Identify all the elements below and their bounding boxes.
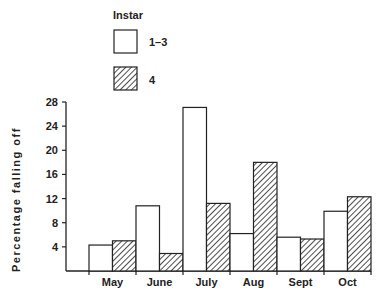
y-axis: 481216202428 (46, 96, 66, 271)
bar-july-instar-4 (207, 203, 231, 271)
y-tick-label: 20 (46, 144, 58, 156)
bar-june-instar-1-3 (136, 206, 160, 271)
x-tick-label: Oct (338, 276, 357, 288)
legend-swatch-open (114, 30, 137, 53)
legend-label-1: 1–3 (149, 36, 167, 48)
x-tick-label: Aug (243, 276, 264, 288)
x-tick-label: Sept (289, 276, 313, 288)
bar-aug-instar-1-3 (230, 234, 254, 271)
bar-oct-instar-1-3 (324, 211, 348, 271)
y-axis-label: Percentage falling off (10, 127, 22, 272)
y-tick-label: 4 (52, 241, 59, 253)
x-tick-label: June (147, 276, 173, 288)
x-axis-labels: MayJuneJulyAugSeptOct (102, 276, 357, 288)
bar-sept-instar-4 (301, 239, 325, 271)
legend-swatch-hatched (114, 67, 137, 90)
bar-aug-instar-4 (254, 162, 278, 271)
x-tick-label: July (195, 276, 218, 288)
bar-may-instar-1-3 (89, 245, 113, 271)
bar-july-instar-1-3 (183, 107, 207, 271)
bar-sept-instar-1-3 (277, 237, 301, 271)
y-tick-label: 8 (52, 217, 58, 229)
legend-title: Instar (113, 9, 144, 21)
bar-chart: Instar 1–3 4 481216202428 MayJuneJulyAug… (0, 0, 385, 297)
y-tick-label: 12 (46, 193, 58, 205)
bar-oct-instar-4 (348, 197, 372, 271)
legend: Instar 1–3 4 (113, 9, 167, 90)
legend-label-2: 4 (149, 74, 156, 86)
x-tick-label: May (102, 276, 124, 288)
y-tick-label: 16 (46, 168, 58, 180)
y-tick-label: 24 (46, 120, 59, 132)
bars (66, 107, 371, 275)
bar-june-instar-4 (160, 253, 184, 271)
bar-may-instar-4 (113, 241, 137, 271)
y-tick-label: 28 (46, 96, 58, 108)
